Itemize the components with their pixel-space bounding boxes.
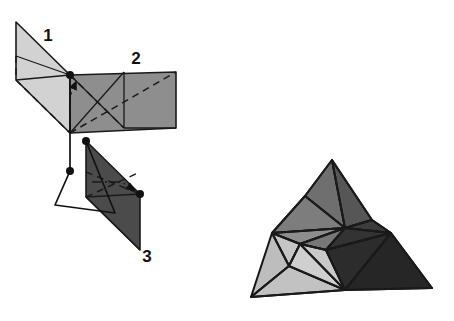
vertex-dot-top-junction [66, 71, 74, 79]
vertex-dot-piece-1-tip [66, 167, 74, 175]
vertex-dot-piece-3-top [82, 137, 90, 145]
vertex-dot-piece-3-right [136, 190, 144, 198]
label-1: 1 [43, 26, 52, 45]
label-3: 3 [142, 247, 151, 266]
figure-root: 123 [0, 0, 454, 321]
piece-2-group [70, 72, 176, 133]
piece-3-group [86, 141, 140, 250]
figure-canvas: 123 [0, 0, 454, 321]
assembled-polyhedron-group [251, 160, 432, 297]
label-2: 2 [131, 49, 140, 68]
net-group [16, 22, 176, 250]
